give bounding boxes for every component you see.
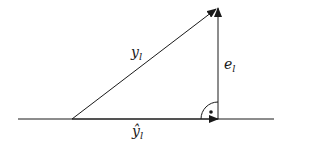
vector-y-arrow — [72, 9, 216, 119]
label-y-base: y — [131, 44, 139, 60]
label-y: yl — [131, 45, 142, 62]
right-angle-dot-icon — [209, 110, 213, 114]
label-y-hat: ŷl — [132, 124, 143, 141]
label-y-sub: l — [139, 51, 142, 62]
label-y-hat-sub: l — [140, 130, 143, 141]
right-angle-arc-icon — [201, 102, 218, 119]
label-e: el — [224, 57, 236, 74]
label-e-sub: l — [232, 63, 235, 74]
label-y-hat-base: ŷ — [132, 123, 140, 139]
